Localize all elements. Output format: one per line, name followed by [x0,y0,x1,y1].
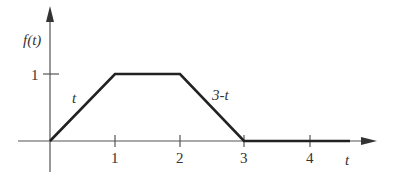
x-axis-label: t [345,152,350,168]
x-tick-label-2: 2 [176,150,184,166]
y-axis-label: f(t) [23,32,41,49]
fall-annotation: 3-t [211,87,229,103]
x-tick-label-4: 4 [306,150,314,166]
y-tick-label-1: 1 [31,67,39,83]
function-curve [50,74,350,141]
x-axis-arrow-icon [361,137,377,145]
rise-annotation: t [72,90,77,106]
x-tick-label-3: 3 [240,150,248,166]
x-tick-label-1: 1 [111,150,119,166]
y-axis-arrow-icon [46,6,54,22]
trapezoid-plot: f(t) 1 1 2 3 4 t t 3-t [0,0,394,181]
